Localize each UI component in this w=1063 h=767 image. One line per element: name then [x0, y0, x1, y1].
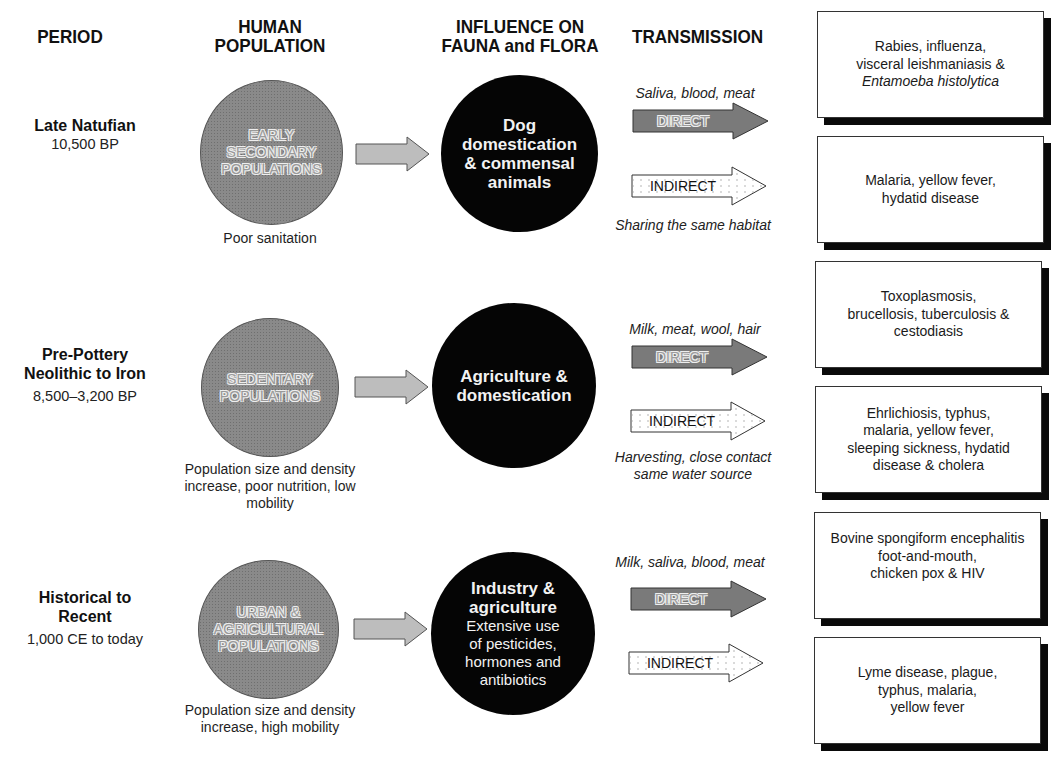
population-circle-early-secondary: EARLY SECONDARY POPULATIONS [200, 80, 343, 225]
influence-subtitle: Extensive use of pesticides, hormones an… [465, 617, 561, 689]
disease-box-indirect: Malaria, yellow fever, hydatid disease [817, 136, 1044, 243]
header-human-population: HUMAN POPULATION [189, 17, 351, 55]
influence-title: Dog domestication & commensal animals [462, 116, 577, 192]
population-label: EARLY SECONDARY POPULATIONS [221, 127, 322, 178]
flow-arrow-icon [355, 136, 431, 172]
influence-title: Industry & agriculture [469, 579, 557, 617]
header-period: PERIOD [25, 27, 115, 46]
influence-title: Agriculture & domestication [456, 367, 571, 405]
influence-circle-dog-domestication: Dog domestication & commensal animals [441, 75, 598, 232]
period-pre-pottery-neolithic: Pre-Pottery Neolithic to Iron 8,500–3,20… [5, 345, 165, 405]
influence-circle-agriculture: Agriculture & domestication [432, 303, 596, 468]
flow-arrow-icon [354, 369, 430, 405]
period-historical-to-recent: Historical to Recent 1,000 CE to today [5, 588, 165, 648]
disease-box-direct: Bovine spongiform encephalitis foot-and-… [814, 512, 1041, 619]
disease-list: Rabies, influenza, visceral leishmaniasi… [856, 38, 1005, 72]
direct-label: DIRECT [632, 114, 734, 128]
period-dates: 10,500 BP [5, 135, 165, 153]
header-influence: INFLUENCE ON FAUNA and FLORA [426, 17, 615, 55]
period-dates: 8,500–3,200 BP [5, 387, 165, 405]
direct-label: DIRECT [631, 350, 733, 364]
period-name: Pre-Pottery Neolithic to Iron [5, 345, 165, 383]
disease-box-direct: Rabies, influenza, visceral leishmaniasi… [817, 11, 1044, 118]
disease-list: Toxoplasmosis, brucellosis, tuberculosis… [848, 288, 1010, 341]
indirect-vector-text: Sharing the same habitat [598, 217, 788, 234]
indirect-vector-text: Harvesting, close contact same water sou… [598, 449, 788, 483]
population-note: Population size and density increase, po… [155, 461, 385, 512]
indirect-label: INDIRECT [631, 414, 733, 428]
period-name: Late Natufian [5, 116, 165, 135]
header-transmission: TRANSMISSION [614, 27, 781, 46]
period-name: Historical to Recent [5, 588, 165, 626]
disease-box-indirect: Lyme disease, plague, typhus, malaria, y… [814, 637, 1041, 744]
population-label: SEDENTARY POPULATIONS [220, 371, 321, 405]
population-circle-urban-agricultural: URBAN & AGRICULTURAL POPULATIONS [198, 560, 339, 699]
period-late-natufian: Late Natufian 10,500 BP [5, 116, 165, 153]
population-note: Population size and density increase, hi… [155, 702, 385, 736]
disease-list: Lyme disease, plague, typhus, malaria, y… [858, 664, 998, 717]
disease-box-indirect: Ehrlichiosis, typhus, malaria, yellow fe… [815, 386, 1042, 493]
indirect-label: INDIRECT [629, 656, 731, 670]
disease-list: Malaria, yellow fever, hydatid disease [865, 172, 996, 207]
population-note: Poor sanitation [170, 230, 370, 247]
indirect-label: INDIRECT [632, 179, 734, 193]
direct-vector-text: Milk, meat, wool, hair [610, 321, 780, 338]
disease-list: Bovine spongiform encephalitis foot-and-… [831, 530, 1025, 583]
population-circle-sedentary: SEDENTARY POPULATIONS [201, 318, 339, 457]
flow-arrow-icon [353, 611, 429, 647]
direct-label: DIRECT [630, 592, 732, 606]
period-dates: 1,000 CE to today [5, 630, 165, 648]
disease-list-italic: Entamoeba histolytica [862, 73, 999, 89]
disease-list: Ehrlichiosis, typhus, malaria, yellow fe… [847, 405, 1010, 475]
influence-circle-industry: Industry & agriculture Extensive use of … [431, 552, 595, 715]
population-label: URBAN & AGRICULTURAL POPULATIONS [214, 604, 324, 655]
direct-vector-text: Saliva, blood, meat [610, 85, 780, 102]
direct-vector-text: Milk, saliva, blood, meat [600, 554, 780, 571]
disease-box-direct: Toxoplasmosis, brucellosis, tuberculosis… [815, 261, 1042, 368]
